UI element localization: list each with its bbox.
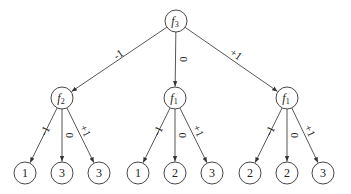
leaf-value: 3	[209, 166, 215, 180]
leaf-node: 3	[201, 162, 223, 184]
edge-root-to-n2	[175, 32, 176, 87]
edge-label: 0	[289, 133, 301, 139]
leaf-node: 3	[312, 162, 334, 184]
leaf-node: 1	[14, 162, 36, 184]
leaf-node: 2	[276, 162, 298, 184]
edge-label: 0	[64, 133, 76, 139]
leaf-value: 3	[96, 166, 102, 180]
root-node-f3: f3	[165, 10, 187, 32]
internal-node-f1: f1	[164, 87, 186, 109]
leaf-node: 2	[164, 162, 186, 184]
tree-diagram: -10+1-10+1-10+1-10+1 f3f2f1f1133123223	[0, 0, 351, 194]
leaf-node: 3	[88, 162, 110, 184]
edge-label: -1	[150, 124, 165, 138]
leaf-value: 2	[172, 166, 178, 180]
leaf-value: 2	[247, 166, 253, 180]
edge-label: +1	[228, 46, 244, 63]
leaf-node: 2	[239, 162, 261, 184]
leaf-value: 2	[284, 166, 290, 180]
edge-label: +1	[302, 123, 318, 139]
edge-label: 0	[178, 57, 190, 63]
edge-label: +1	[191, 123, 207, 139]
leaf-value: 1	[135, 166, 141, 180]
internal-node-f1: f1	[276, 87, 298, 109]
edge-label: -1	[111, 47, 125, 62]
edge-label: 0	[177, 133, 189, 139]
edge-root-to-n3	[185, 27, 278, 91]
leaf-node: 1	[127, 162, 149, 184]
internal-node-f2: f2	[51, 87, 73, 109]
edge-label: -1	[37, 124, 52, 138]
leaf-value: 1	[22, 166, 28, 180]
edge-label: -1	[262, 124, 277, 138]
leaf-value: 3	[59, 166, 65, 180]
leaf-value: 3	[320, 166, 326, 180]
leaf-node: 3	[51, 162, 73, 184]
edge-label: +1	[78, 123, 94, 139]
